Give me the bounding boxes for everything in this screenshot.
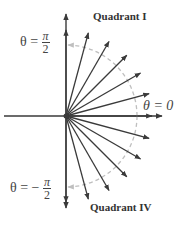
theta-neg-pi-over-2-label: θ = − π2 [10,176,51,201]
fraction-denominator: 2 [43,189,51,201]
theta-zero-label: θ = 0 [143,98,173,114]
theta-bottom-lhs: θ = − [10,180,40,195]
angle-rays [66,30,152,202]
origin-point [64,114,69,119]
theta-top-lhs: θ = [20,34,38,49]
fraction-denominator: 2 [42,43,50,55]
quadrant-i-label: Quadrant I [93,10,147,22]
neg-pi-over-2-fraction: π2 [43,176,51,201]
quadrant-iv-label: Quadrant IV [90,201,151,213]
pi-over-2-fraction: π2 [42,30,50,55]
theta-pi-over-2-label: θ = π2 [20,30,50,55]
